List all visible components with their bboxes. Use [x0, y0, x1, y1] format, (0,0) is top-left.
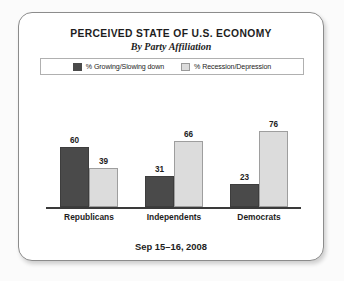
- chart-legend: % Growing/Slowing down % Recession/Depre…: [40, 58, 304, 75]
- bar-value-democrats-recession: 76: [259, 120, 288, 129]
- bar-value-independents-growing: 31: [145, 165, 174, 174]
- bar-democrats-recession: [259, 131, 288, 207]
- legend-label-growing: % Growing/Slowing down: [86, 63, 164, 71]
- bar-independents-recession: [174, 141, 203, 207]
- x-label-republicans: Republicans: [46, 212, 132, 222]
- screenshot-stage: PERCEIVED STATE OF U.S. ECONOMY By Party…: [0, 0, 344, 281]
- bar-republicans-recession: [89, 168, 118, 207]
- bar-wrap-democrats-recession: 76: [259, 131, 288, 207]
- x-axis-line: [46, 207, 301, 209]
- x-label-democrats: Democrats: [216, 212, 302, 222]
- bar-value-independents-recession: 66: [174, 130, 203, 139]
- chart-title: PERCEIVED STATE OF U.S. ECONOMY: [19, 28, 323, 39]
- legend-entry-growing: % Growing/Slowing down: [73, 63, 164, 71]
- chart-footnote-date: Sep 15–16, 2008: [19, 241, 323, 252]
- bar-republicans-growing: [60, 147, 89, 207]
- bar-wrap-independents-growing: 31: [145, 176, 174, 207]
- bar-group-republicans: 60 39: [54, 89, 124, 207]
- bar-wrap-republicans-recession: 39: [89, 168, 118, 207]
- bar-democrats-growing: [230, 184, 259, 207]
- light-swatch-icon: [181, 63, 190, 71]
- bar-value-republicans-recession: 39: [89, 157, 118, 166]
- bar-value-republicans-growing: 60: [60, 136, 89, 145]
- legend-label-recession: % Recession/Depression: [194, 63, 271, 71]
- legend-entry-recession: % Recession/Depression: [181, 63, 271, 71]
- bar-independents-growing: [145, 176, 174, 207]
- chart-card: PERCEIVED STATE OF U.S. ECONOMY By Party…: [18, 12, 324, 261]
- bar-group-democrats: 23 76: [224, 89, 294, 207]
- bar-wrap-republicans-growing: 60: [60, 147, 89, 207]
- x-label-independents: Independents: [131, 212, 217, 222]
- bar-group-independents: 31 66: [139, 89, 209, 207]
- bar-wrap-democrats-growing: 23: [230, 184, 259, 207]
- plot-area: 60 39 31 66 23: [46, 83, 301, 209]
- x-axis-labels: Republicans Independents Democrats: [46, 212, 301, 226]
- bar-value-democrats-growing: 23: [230, 173, 259, 182]
- bar-wrap-independents-recession: 66: [174, 141, 203, 207]
- dark-swatch-icon: [73, 63, 82, 71]
- chart-subtitle: By Party Affiliation: [19, 41, 323, 52]
